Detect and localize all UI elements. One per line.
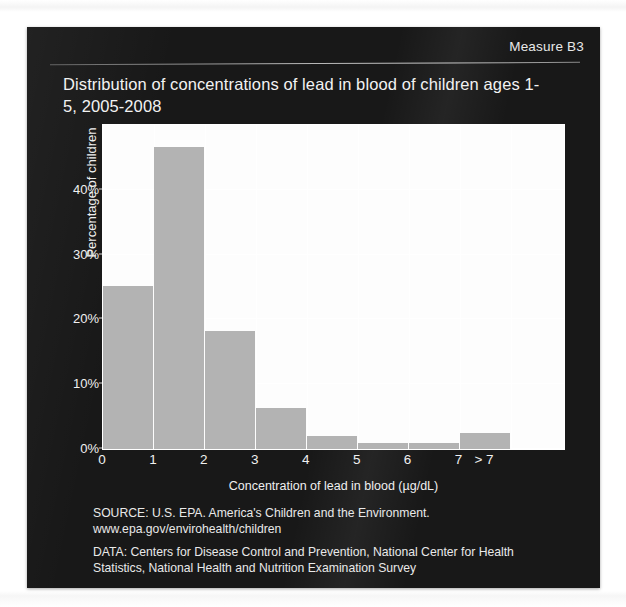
chart-bar <box>460 433 511 449</box>
chart-bar <box>154 147 205 449</box>
x-axis-tick-label: 0 <box>98 452 106 467</box>
chart-bar <box>307 436 358 449</box>
header-divider <box>50 62 580 65</box>
x-axis-tick-label: 7 <box>455 452 463 467</box>
page-top-edge <box>0 0 626 12</box>
chart-bar <box>256 408 307 449</box>
chart-bar <box>205 331 256 449</box>
measure-label: Measure B3 <box>509 39 584 54</box>
source-note-line-2: www.epa.gov/envirohealth/children <box>93 522 573 538</box>
x-axis-tick-label: > 7 <box>474 452 493 467</box>
y-axis-tick-label: 30% <box>55 246 99 261</box>
x-axis-ticks: 01234567> 7 <box>102 452 565 472</box>
source-note-line-1: SOURCE: U.S. EPA. America's Children and… <box>93 506 573 522</box>
gridline-vertical <box>460 125 461 449</box>
gridline-vertical <box>409 125 410 449</box>
chart-bar <box>409 443 460 449</box>
y-axis-tick-label: 0% <box>55 441 99 456</box>
gridline-vertical <box>511 125 512 449</box>
chart-bar <box>358 443 409 449</box>
x-axis-tick-label: 5 <box>353 452 361 467</box>
y-axis-tick-label: 40% <box>55 181 99 196</box>
y-axis-ticks: 0%10%20%30%40% <box>49 124 99 450</box>
chart-plot-area <box>102 124 565 450</box>
x-axis-tick-label: 2 <box>200 452 208 467</box>
slide-panel: Measure B3 Distribution of concentration… <box>27 27 600 588</box>
gridline-vertical <box>307 125 308 449</box>
x-axis-title: Concentration of lead in blood (µg/dL) <box>102 479 565 493</box>
gridline-vertical <box>256 125 257 449</box>
y-axis-tick-label: 10% <box>55 376 99 391</box>
gridline-vertical <box>358 125 359 449</box>
page-bottom-edge <box>0 591 626 607</box>
y-axis-tick-label: 20% <box>55 311 99 326</box>
data-note: DATA: Centers for Disease Control and Pr… <box>93 545 593 576</box>
x-axis-tick-label: 4 <box>302 452 310 467</box>
source-note: SOURCE: U.S. EPA. America's Children and… <box>93 506 573 537</box>
x-axis-tick-label: 6 <box>404 452 412 467</box>
page-title: Distribution of concentrations of lead i… <box>63 73 543 117</box>
data-note-line-2: Statistics, National Health and Nutritio… <box>93 561 593 577</box>
chart-bar <box>103 286 154 449</box>
x-axis-tick-label: 1 <box>149 452 157 467</box>
x-axis-tick-label: 3 <box>251 452 259 467</box>
data-note-line-1: DATA: Centers for Disease Control and Pr… <box>93 545 593 561</box>
